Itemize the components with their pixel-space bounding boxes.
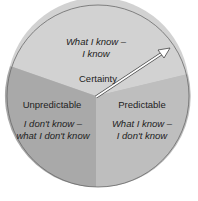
predictable-description-line1: What I know –	[100, 118, 184, 130]
unpredictable-description-line2: what I don't know	[10, 130, 96, 142]
certainty-description-line2: I know	[48, 48, 144, 60]
unpredictable-description: I don't know – what I don't know	[10, 118, 96, 142]
predictable-description: What I know – I don't know	[100, 118, 184, 142]
predictable-description-line2: I don't know	[100, 130, 184, 142]
certainty-description-line1: What I know –	[48, 36, 144, 48]
certainty-title: Certainty	[58, 73, 138, 85]
unpredictable-title: Unpredictable	[12, 99, 92, 111]
predictable-title: Predictable	[106, 99, 178, 111]
certainty-description: What I know – I know	[48, 36, 144, 60]
unpredictable-description-line1: I don't know –	[10, 118, 96, 130]
